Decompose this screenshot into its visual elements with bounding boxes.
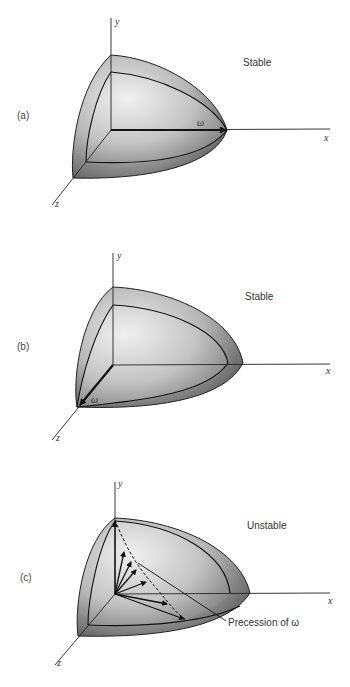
- rigid-body-stability-figure: ω y x z Stable (a) ω y x z Stable (b): [0, 0, 350, 687]
- panel-label: (b): [17, 341, 29, 352]
- x-axis-label: x: [325, 365, 331, 376]
- state-label: Unstable: [247, 520, 287, 531]
- y-axis-label: y: [114, 16, 120, 27]
- panel-label: (a): [17, 110, 29, 121]
- panel-label: (c): [20, 572, 32, 583]
- x-axis-label: x: [327, 595, 333, 606]
- z-axis-label: z: [56, 657, 61, 668]
- omega-label: ω: [91, 394, 98, 405]
- x-axis-label: x: [323, 132, 329, 143]
- omega-label: ω: [197, 117, 204, 128]
- z-axis-label: z: [55, 432, 60, 443]
- panel-c: y x z Unstable (c) Precession of ω: [20, 478, 333, 668]
- y-axis-label: y: [117, 478, 123, 489]
- panel-b: ω y x z Stable (b): [17, 250, 331, 443]
- y-axis-label: y: [116, 250, 122, 261]
- state-label: Stable: [245, 291, 274, 302]
- z-axis-label: z: [54, 198, 59, 209]
- precession-annotation: Precession of ω: [228, 617, 299, 628]
- state-label: Stable: [243, 57, 272, 68]
- panel-a: ω y x z Stable (a): [17, 16, 330, 209]
